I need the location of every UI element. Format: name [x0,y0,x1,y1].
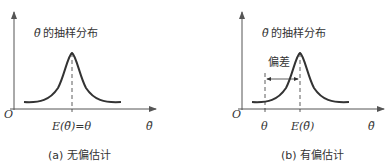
dist-symbol: θ̃ [262,27,269,40]
x-axis-label: θ̃ [368,120,375,133]
bias-label: 偏差 [268,55,290,69]
panel-a: θ̃ 的抽样分布 O E(θ̃)=θ θ̃ (a) 无偏估计 [4,12,156,162]
caption-b: (b) 有偏估计 [281,148,344,162]
distribution-curve [24,53,121,102]
dist-label: 的抽样分布 [43,26,98,40]
caption-a: (a) 无偏估计 [48,148,111,162]
tick-label-theta: θ [261,120,268,133]
origin-label: O [232,108,241,121]
dist-symbol: θ̃ [34,27,41,40]
tick-label-mean: E(θ̃) [290,120,314,133]
tick-label-mean: E(θ̃)=θ [51,120,91,133]
x-axis-label: θ̃ [146,120,153,133]
distribution-curve [252,53,349,102]
panel-b: 偏差 θ̃ 的抽样分布 O θ E(θ̃) θ̃ (b) 有偏估计 [232,12,384,162]
origin-label: O [4,108,13,121]
dist-label: 的抽样分布 [271,26,326,40]
estimator-diagram: θ̃ 的抽样分布 O E(θ̃)=θ θ̃ (a) 无偏估计 偏差 θ̃ 的抽样… [0,0,385,167]
